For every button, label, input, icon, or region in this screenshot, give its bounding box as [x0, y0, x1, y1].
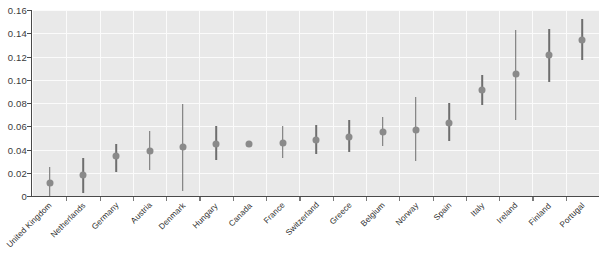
data-point — [346, 133, 353, 140]
data-point — [246, 140, 253, 147]
y-axis-spine — [31, 10, 32, 197]
y-tick-mark — [27, 57, 31, 58]
x-tick-mark — [133, 197, 134, 201]
data-point — [179, 144, 186, 151]
x-category-label: Ireland — [495, 201, 520, 226]
gridline-vertical — [299, 10, 300, 196]
gridline-vertical — [532, 10, 533, 196]
x-tick-mark — [499, 197, 500, 201]
data-point — [446, 119, 453, 126]
x-tick-mark — [333, 197, 334, 201]
gridline-vertical — [100, 10, 101, 196]
y-tick-mark — [27, 80, 31, 81]
y-tick-mark — [27, 10, 31, 11]
y-tick-label: 0.04 — [8, 144, 27, 155]
x-tick-mark — [299, 197, 300, 201]
data-point — [579, 37, 586, 44]
y-tick-label: 0.12 — [8, 51, 27, 62]
x-category-label: Spain — [432, 201, 454, 223]
gridline-vertical — [233, 10, 234, 196]
gridline-vertical — [166, 10, 167, 196]
x-category-label: Switzerland — [284, 201, 321, 238]
y-tick-label: 0.10 — [8, 74, 27, 85]
data-point — [213, 140, 220, 147]
gridline-vertical — [266, 10, 267, 196]
y-tick-mark — [27, 126, 31, 127]
x-category-label: Greece — [328, 201, 354, 227]
y-tick-mark — [27, 150, 31, 151]
x-tick-mark — [233, 197, 234, 201]
x-tick-mark — [100, 197, 101, 201]
gridline-vertical — [499, 10, 500, 196]
x-tick-mark — [433, 197, 434, 201]
x-category-label: Germany — [90, 201, 121, 232]
x-tick-mark — [566, 197, 567, 201]
y-tick-label: 0.14 — [8, 28, 27, 39]
gridline-vertical — [566, 10, 567, 196]
x-category-label: Austria — [129, 201, 154, 226]
x-category-label: Denmark — [157, 201, 187, 231]
y-tick-mark — [27, 103, 31, 104]
gridline-vertical — [66, 10, 67, 196]
chart-container: 00.020.040.060.080.100.120.140.16 United… — [0, 0, 607, 266]
x-axis-spine — [31, 196, 599, 197]
x-category-label: Belgium — [359, 201, 387, 229]
data-point — [479, 87, 486, 94]
gridline-vertical — [399, 10, 400, 196]
x-category-label: France — [262, 201, 287, 226]
data-point — [512, 70, 519, 77]
x-category-label: Netherlands — [49, 201, 87, 239]
gridline-vertical — [333, 10, 334, 196]
y-tick-mark — [27, 33, 31, 34]
gridline-vertical — [133, 10, 134, 196]
x-tick-mark — [166, 197, 167, 201]
data-point — [379, 129, 386, 136]
y-tick-label: 0.06 — [8, 121, 27, 132]
data-point — [546, 52, 553, 59]
x-tick-mark — [532, 197, 533, 201]
x-category-label: Portugal — [558, 201, 586, 229]
x-tick-mark — [266, 197, 267, 201]
y-tick-label: 0.16 — [8, 5, 27, 16]
gridline-horizontal — [33, 10, 599, 11]
data-point — [313, 137, 320, 144]
data-point — [412, 126, 419, 133]
y-tick-label: 0.08 — [8, 98, 27, 109]
x-category-label: Canada — [227, 201, 254, 228]
gridline-vertical — [366, 10, 367, 196]
data-point — [279, 139, 286, 146]
gridline-vertical — [433, 10, 434, 196]
x-tick-mark — [66, 197, 67, 201]
gridline-vertical — [199, 10, 200, 196]
x-tick-mark — [199, 197, 200, 201]
gridline-vertical — [466, 10, 467, 196]
gridline-horizontal — [33, 173, 599, 174]
y-tick-label: 0.02 — [8, 167, 27, 178]
x-category-label: Norway — [394, 201, 420, 227]
x-tick-mark — [466, 197, 467, 201]
data-point — [146, 147, 153, 154]
x-category-label: Italy — [469, 201, 486, 218]
data-point — [46, 180, 53, 187]
x-category-label: Hungary — [191, 201, 220, 230]
x-tick-mark — [366, 197, 367, 201]
y-tick-mark — [27, 173, 31, 174]
x-category-label: Finland — [527, 201, 553, 227]
data-point — [79, 172, 86, 179]
x-tick-mark — [399, 197, 400, 201]
data-point — [113, 153, 120, 160]
y-tick-mark — [27, 196, 31, 197]
